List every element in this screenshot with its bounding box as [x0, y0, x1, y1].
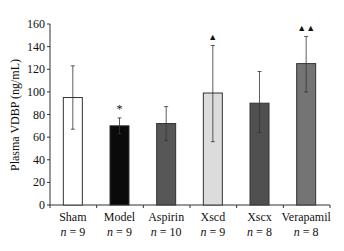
bar-group-aspirin: [157, 107, 176, 205]
y-tick-label: 100: [27, 85, 45, 99]
y-tick-label: 140: [27, 40, 45, 54]
y-axis: 020406080100120140160: [27, 17, 50, 212]
y-tick-label: 120: [27, 62, 45, 76]
significance-marker: *: [117, 102, 123, 116]
y-tick-label: 40: [33, 153, 45, 167]
x-tick-label: Sham: [59, 210, 87, 224]
y-axis-label: Plasma VDBP (ng/mL): [8, 59, 22, 171]
x-tick-label: Model: [104, 210, 136, 224]
x-tick-label: Xscd: [200, 210, 225, 224]
y-tick-label: 160: [27, 17, 45, 31]
bar-chart: 020406080100120140160 Shamn = 9Modeln = …: [0, 0, 344, 251]
x-tick-label: Verapamil: [282, 210, 332, 224]
n-label: n = 9: [200, 225, 225, 239]
x-axis: Shamn = 9Modeln = 9Aspirinn = 10Xscdn = …: [50, 205, 331, 239]
n-label: n = 9: [107, 225, 132, 239]
x-tick-label: Aspirin: [148, 210, 184, 224]
bar: [110, 126, 129, 205]
bar-group-xscx: [250, 72, 269, 205]
bar-group-verapamil: ▲▲: [297, 23, 316, 205]
n-label: n = 8: [294, 225, 319, 239]
n-label: n = 10: [151, 225, 182, 239]
n-label: n = 9: [60, 225, 85, 239]
bars: *▲▲▲: [63, 23, 315, 205]
y-tick-label: 60: [33, 130, 45, 144]
x-tick-label: Xscx: [247, 210, 272, 224]
y-tick-label: 80: [33, 108, 45, 122]
bar-group-xscd: ▲: [203, 32, 222, 205]
bar-group-model: *: [110, 102, 129, 205]
bar-group-sham: [63, 66, 82, 205]
n-label: n = 8: [247, 225, 272, 239]
significance-marker: ▲▲: [297, 23, 315, 33]
y-tick-label: 0: [39, 198, 45, 212]
y-tick-label: 20: [33, 175, 45, 189]
significance-marker: ▲: [208, 32, 217, 42]
